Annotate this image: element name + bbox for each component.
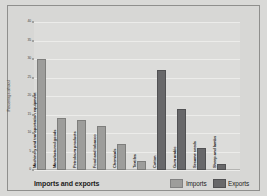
legend-label: Exports (228, 180, 249, 187)
y-tick-label: 5 (29, 150, 31, 153)
y-axis: Percentage of total 0510152025303540 (8, 22, 34, 170)
bar-slot: Textiles (136, 22, 156, 170)
bar-group: Machinery and transportation equipmentMa… (34, 22, 240, 170)
y-tick-label: 30 (27, 57, 31, 60)
bar-category-label: Cotton (153, 155, 157, 168)
y-tick-label: 25 (27, 76, 31, 79)
y-tick-label: 40 (27, 20, 31, 23)
legend: ImportsExports (170, 179, 249, 188)
bar-slot: Sheep and lambs (216, 22, 236, 170)
bar[interactable] (77, 120, 86, 170)
bar[interactable] (57, 118, 66, 170)
chart-footer: Imports and exports ImportsExports (34, 176, 249, 190)
y-tick-label: 15 (27, 113, 31, 116)
bar-category-label: Sheep and lambs (213, 136, 217, 168)
bar[interactable] (117, 144, 126, 170)
bar[interactable] (197, 148, 206, 170)
y-tick-label: 35 (27, 39, 31, 42)
bar-category-label: Petroleum products (73, 131, 77, 168)
bar[interactable] (157, 70, 166, 170)
legend-swatch-icon (213, 179, 226, 188)
bar-category-label: Manufactured goods (53, 130, 57, 168)
legend-item-imports[interactable]: Imports (170, 179, 206, 188)
bar-category-label: Machinery and transportation equipment (33, 92, 37, 168)
bar-category-label: Chemicals (113, 148, 117, 168)
y-tick-label: 0 (29, 168, 31, 171)
bar-category-label: Gum arabic (173, 146, 177, 168)
y-tick-label: 20 (27, 94, 31, 97)
bar-category-label: Food and tobacco (93, 134, 97, 168)
legend-item-exports[interactable]: Exports (213, 179, 249, 188)
bar-slot: Chemicals (116, 22, 136, 170)
chart-frame: Percentage of total 0510152025303540 Mac… (7, 5, 260, 191)
chart-figure: Percentage of total 0510152025303540 Mac… (0, 0, 267, 196)
legend-label: Imports (186, 180, 207, 187)
chart-title: Imports and exports (34, 180, 99, 187)
bar[interactable] (97, 126, 106, 170)
plot-area: Machinery and transportation equipmentMa… (34, 22, 240, 170)
bar-category-label: Sesame seeds (193, 141, 197, 168)
bar[interactable] (137, 161, 146, 170)
bar[interactable] (177, 109, 186, 170)
bar[interactable] (217, 164, 226, 170)
gridline (34, 170, 240, 171)
bar[interactable] (37, 59, 46, 170)
bar-category-label: Textiles (133, 154, 137, 168)
y-tick-label: 10 (27, 131, 31, 134)
y-axis-title: Percentage of total (8, 81, 12, 112)
legend-swatch-icon (170, 179, 183, 188)
